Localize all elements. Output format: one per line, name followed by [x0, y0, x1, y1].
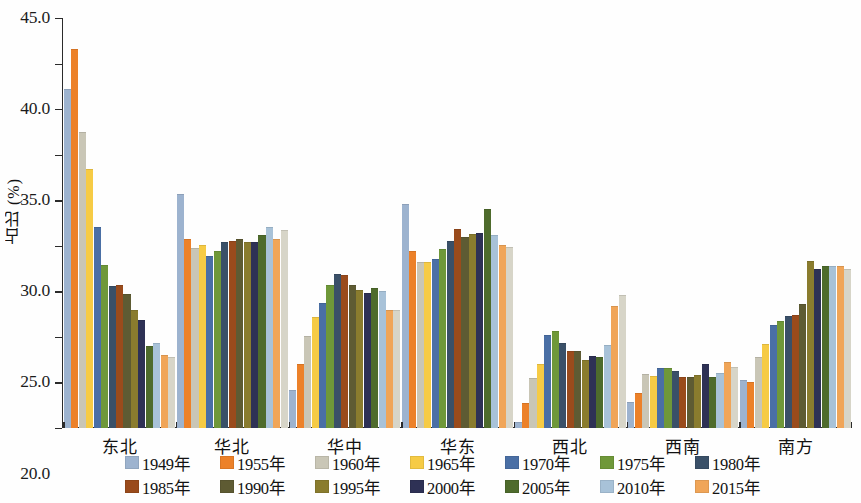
bar — [168, 357, 175, 428]
bar — [161, 355, 168, 428]
legend-label: 1955年 — [237, 451, 286, 475]
bar — [747, 382, 754, 428]
y-axis-tick: 0.0 — [55, 428, 62, 429]
bar — [785, 316, 792, 428]
y-axis-tick-label: 20.0 — [20, 463, 50, 484]
bar — [596, 357, 603, 428]
legend-item[interactable]: 1965年 — [410, 452, 505, 473]
bar — [755, 357, 762, 428]
legend-item[interactable]: 1970年 — [505, 452, 600, 473]
y-axis-tick: 35.0 — [55, 109, 62, 110]
legend-item[interactable]: 1990年 — [220, 476, 315, 497]
x-axis-tick — [289, 422, 290, 428]
bar-group: 华中 — [289, 18, 402, 428]
legend-item[interactable]: 1949年 — [125, 452, 220, 473]
bar — [491, 235, 498, 428]
y-axis-tick-label: 40.0 — [20, 98, 50, 119]
bar — [71, 49, 78, 428]
bar — [191, 248, 198, 428]
legend-swatch-icon — [315, 456, 329, 469]
bar — [289, 390, 296, 428]
legend-swatch-icon — [125, 456, 139, 469]
y-axis-title: 占比 (%) — [2, 178, 28, 244]
bar — [184, 239, 191, 428]
bar — [552, 331, 559, 428]
legend-item[interactable]: 2005年 — [505, 476, 600, 497]
legend-item[interactable]: 1995年 — [315, 476, 410, 497]
bar — [829, 266, 836, 428]
bar — [642, 374, 649, 428]
x-axis-tick — [176, 422, 177, 428]
bar — [177, 194, 184, 428]
x-axis-tick — [627, 422, 628, 428]
bar — [94, 227, 101, 428]
legend-item[interactable]: 1955年 — [220, 452, 315, 473]
legend-label: 1970年 — [522, 451, 571, 475]
bar-group: 华北 — [176, 18, 289, 428]
legend-item[interactable]: 2000年 — [410, 476, 505, 497]
bar — [123, 294, 130, 428]
legend-item[interactable]: 1985年 — [125, 476, 220, 497]
bar — [716, 373, 723, 428]
bar — [559, 343, 566, 428]
y-axis-tick-label: 35.0 — [20, 189, 50, 210]
bar — [792, 315, 799, 428]
bar — [522, 403, 529, 429]
bar — [574, 351, 581, 428]
legend-swatch-icon — [410, 456, 424, 469]
bar — [807, 261, 814, 428]
bar — [326, 285, 333, 428]
bar — [702, 364, 709, 428]
y-axis-tick: 25.0 — [55, 200, 62, 201]
x-axis-tick — [514, 422, 515, 428]
legend-swatch-icon — [315, 480, 329, 493]
bar — [199, 245, 206, 428]
legend-item[interactable]: 1975年 — [600, 452, 695, 473]
bar — [214, 251, 221, 428]
bar — [281, 230, 288, 428]
bar — [364, 293, 371, 428]
legend-swatch-icon — [600, 456, 614, 469]
bar — [138, 320, 145, 428]
bar — [304, 336, 311, 428]
bar — [266, 227, 273, 428]
bar-group: 华东 — [401, 18, 514, 428]
bar — [476, 233, 483, 428]
bar — [297, 364, 304, 428]
bar — [454, 229, 461, 428]
legend-item[interactable]: 2015年 — [695, 476, 790, 497]
bar — [567, 351, 574, 428]
bar-group: 西北 — [514, 18, 627, 428]
legend-swatch-icon — [505, 480, 519, 493]
bar — [334, 274, 341, 428]
bar — [319, 303, 326, 428]
bar — [116, 285, 123, 428]
bar — [709, 377, 716, 428]
bar — [432, 259, 439, 428]
legend-swatch-icon — [220, 456, 234, 469]
bar — [341, 275, 348, 428]
bar-chart: 占比 (%) 0.05.010.015.020.025.030.035.040.… — [0, 0, 861, 503]
bar — [650, 376, 657, 428]
legend-item[interactable]: 1980年 — [695, 452, 790, 473]
legend-swatch-icon — [125, 480, 139, 493]
legend-swatch-icon — [410, 480, 424, 493]
legend-label: 1995年 — [332, 475, 381, 499]
chart-legend: 1949年1955年1960年1965年1970年1975年1980年1985年… — [125, 452, 845, 503]
bar — [799, 304, 806, 428]
bar — [506, 247, 513, 428]
bar — [777, 321, 784, 429]
bar — [837, 266, 844, 428]
bar-group: 南方 — [739, 18, 852, 428]
legend-item[interactable]: 1960年 — [315, 452, 410, 473]
legend-label: 1949年 — [142, 451, 191, 475]
legend-swatch-icon — [220, 480, 234, 493]
bar — [515, 422, 522, 428]
legend-label: 1990年 — [237, 475, 286, 499]
legend-label: 1960年 — [332, 451, 381, 475]
bar — [349, 285, 356, 428]
bar — [529, 378, 536, 428]
bar — [131, 310, 138, 428]
legend-item[interactable]: 2010年 — [600, 476, 695, 497]
bar — [582, 360, 589, 428]
